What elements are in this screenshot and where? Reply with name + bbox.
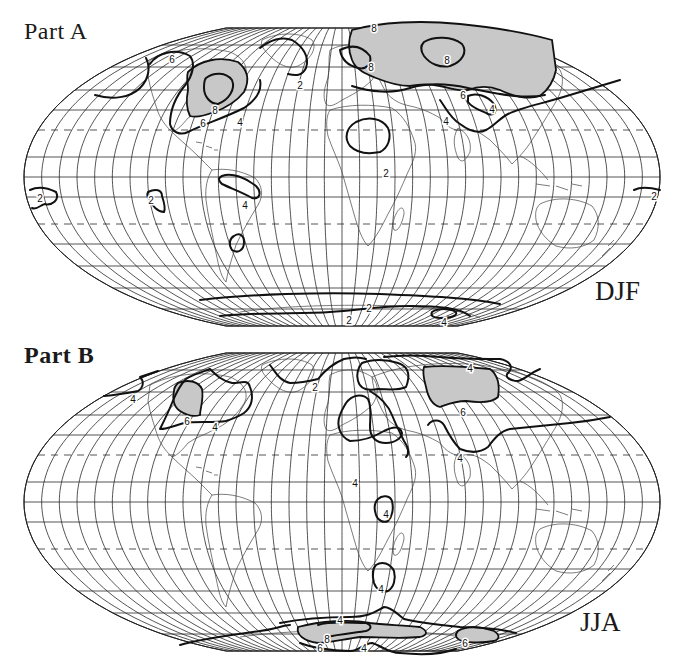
contour-label: 2 [651, 191, 657, 202]
contour-label: 6 [460, 90, 466, 101]
contour-label: 2 [37, 193, 43, 204]
contour-label: 4 [242, 200, 248, 211]
contour-label: 2 [312, 382, 318, 393]
contour-label: 8 [444, 55, 450, 66]
contour-label: 4 [443, 116, 449, 127]
contour-label: 8 [371, 23, 377, 34]
contour-label: 6 [169, 54, 175, 65]
contour-label: 6 [200, 118, 206, 129]
world-map-djf: 6286488864424222224 [0, 0, 682, 340]
contour-label: 4 [467, 363, 473, 374]
contour-label: 6 [462, 638, 468, 649]
contour-label: 4 [489, 104, 495, 115]
contour-label: 8 [368, 62, 374, 73]
contour-label: 8 [212, 105, 218, 116]
contour-label: 2 [148, 195, 154, 206]
contour-label: 6 [317, 643, 323, 654]
contour-label: 2 [297, 80, 303, 91]
contour-label: 4 [337, 615, 343, 626]
world-map-jja: 446246444448646 [0, 325, 682, 665]
contour-label: 4 [352, 478, 358, 489]
contour-label: 4 [457, 453, 463, 464]
contour-label: 4 [378, 584, 384, 595]
contour-label: 8 [324, 634, 330, 645]
contour-label: 4 [130, 394, 136, 405]
contour-label: 4 [212, 422, 218, 433]
contour-label: 4 [237, 117, 243, 128]
contour-label: 4 [361, 643, 367, 654]
map-graticule [24, 353, 660, 651]
contour-label: 6 [184, 416, 190, 427]
contour-label: 4 [383, 509, 389, 520]
contour-label: 6 [460, 407, 466, 418]
map-graticule [24, 28, 660, 326]
contour-label: 2 [366, 303, 372, 314]
contour-label: 2 [383, 168, 389, 179]
